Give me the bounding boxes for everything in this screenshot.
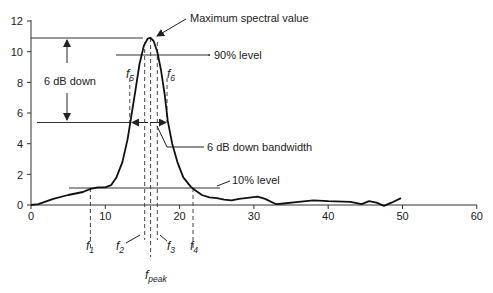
y-tick-6: 6 bbox=[17, 107, 23, 119]
y-tick-2: 2 bbox=[17, 169, 23, 181]
f1-label: f1 bbox=[86, 239, 94, 255]
f5-label: f5 bbox=[126, 67, 134, 83]
x-tick-10: 10 bbox=[99, 210, 111, 222]
x-tick-60: 60 bbox=[471, 210, 483, 222]
f3-label: f3 bbox=[167, 239, 175, 255]
x-tick-30: 30 bbox=[248, 210, 260, 222]
six-db-down-label: 6 dB down bbox=[44, 75, 96, 87]
max-value-label: Maximum spectral value bbox=[190, 12, 309, 24]
y-tick-8: 8 bbox=[17, 77, 23, 89]
spectrum-curve bbox=[31, 38, 401, 206]
frequency-labels: f5 f6 f1 f2 f3 f4 fpeak bbox=[86, 67, 198, 284]
x-tick-40: 40 bbox=[322, 210, 334, 222]
x-tick-labels: 0 10 20 30 40 50 60 bbox=[28, 210, 483, 222]
ninety-percent-label: 90% level bbox=[214, 49, 262, 61]
y-tick-labels: 0 2 4 6 8 10 12 bbox=[11, 15, 23, 211]
y-tick-0: 0 bbox=[17, 199, 23, 211]
spectrum-diagram: 0 2 4 6 8 10 12 0 10 20 30 40 50 60 bbox=[0, 0, 493, 293]
bandwidth-label: 6 dB down bandwidth bbox=[207, 141, 312, 153]
y-tick-10: 10 bbox=[11, 46, 23, 58]
fpeak-label: fpeak bbox=[145, 268, 168, 284]
x-tick-0: 0 bbox=[28, 210, 34, 222]
f4-label: f4 bbox=[190, 239, 198, 255]
ten-percent-label: 10% level bbox=[232, 174, 280, 186]
x-axis bbox=[31, 205, 477, 209]
x-tick-20: 20 bbox=[173, 210, 185, 222]
y-tick-12: 12 bbox=[11, 15, 23, 27]
f6-label: f6 bbox=[167, 67, 175, 83]
level-lines bbox=[31, 38, 220, 188]
y-tick-4: 4 bbox=[17, 138, 23, 150]
x-tick-50: 50 bbox=[396, 210, 408, 222]
y-axis bbox=[27, 20, 31, 205]
f2-label: f2 bbox=[116, 239, 124, 255]
